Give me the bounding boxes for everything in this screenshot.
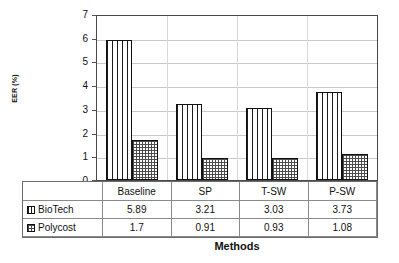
bar-group-p-sw xyxy=(307,16,377,180)
y-tick-label: 4 xyxy=(82,81,88,91)
legend-label-biotech: BioTech xyxy=(38,204,74,215)
y-tick-label: 6 xyxy=(82,34,88,44)
bar-biotech-baseline xyxy=(106,40,132,180)
legend-item-biotech: BioTech xyxy=(23,201,103,219)
table-cell: 0.93 xyxy=(240,219,309,237)
bar-group-t-sw xyxy=(237,16,307,180)
legend-swatch-polycost-icon xyxy=(27,224,35,232)
y-tick-label: 5 xyxy=(82,57,88,67)
legend-item-polycost: Polycost xyxy=(23,219,103,237)
category-label-cell: T-SW xyxy=(240,182,309,201)
y-axis-title: EER (%) xyxy=(11,59,18,119)
bar-groups xyxy=(97,16,377,180)
legend-label-polycost: Polycost xyxy=(38,222,76,233)
bar-biotech-sp xyxy=(176,104,202,180)
data-table: Baseline SP T-SW P-SW BioTech 5.89 3.21 … xyxy=(22,181,378,238)
y-tick-label: 2 xyxy=(82,129,88,139)
y-tick-label: 1 xyxy=(82,152,88,162)
bar-group-baseline xyxy=(97,16,167,180)
x-axis-title: Methods xyxy=(96,240,378,252)
table-cell: 1.08 xyxy=(308,219,377,237)
category-label-cell: SP xyxy=(171,182,240,201)
bar-polycost-baseline xyxy=(132,140,158,180)
table-row-biotech: BioTech 5.89 3.21 3.03 3.73 xyxy=(23,201,377,219)
bar-polycost-t-sw xyxy=(272,158,298,180)
category-label-cell: P-SW xyxy=(308,182,377,201)
y-tick-label: 3 xyxy=(82,105,88,115)
legend-swatch-biotech-icon xyxy=(27,206,35,214)
bar-polycost-p-sw xyxy=(342,154,368,180)
plot-area xyxy=(96,15,378,181)
bar-biotech-p-sw xyxy=(316,92,342,180)
table-cell: 3.21 xyxy=(171,201,240,219)
y-axis-tick-labels: 7 6 5 4 3 2 1 0 xyxy=(74,15,92,181)
bar-polycost-sp xyxy=(202,158,228,180)
category-label-cell: Baseline xyxy=(103,182,172,201)
table-cell: 1.7 xyxy=(103,219,172,237)
table-row-polycost: Polycost 1.7 0.91 0.93 1.08 xyxy=(23,219,377,237)
y-tick-label: 7 xyxy=(82,10,88,20)
table-cell: 3.73 xyxy=(308,201,377,219)
chart-figure: EER (%) 7 6 5 4 3 2 1 0 xyxy=(0,0,399,263)
table-cell: 5.89 xyxy=(103,201,172,219)
table-corner-cell xyxy=(23,182,103,201)
table-row-categories: Baseline SP T-SW P-SW xyxy=(23,182,377,201)
table-cell: 3.03 xyxy=(240,201,309,219)
table-cell: 0.91 xyxy=(171,219,240,237)
bar-biotech-t-sw xyxy=(246,108,272,180)
bar-group-sp xyxy=(167,16,237,180)
